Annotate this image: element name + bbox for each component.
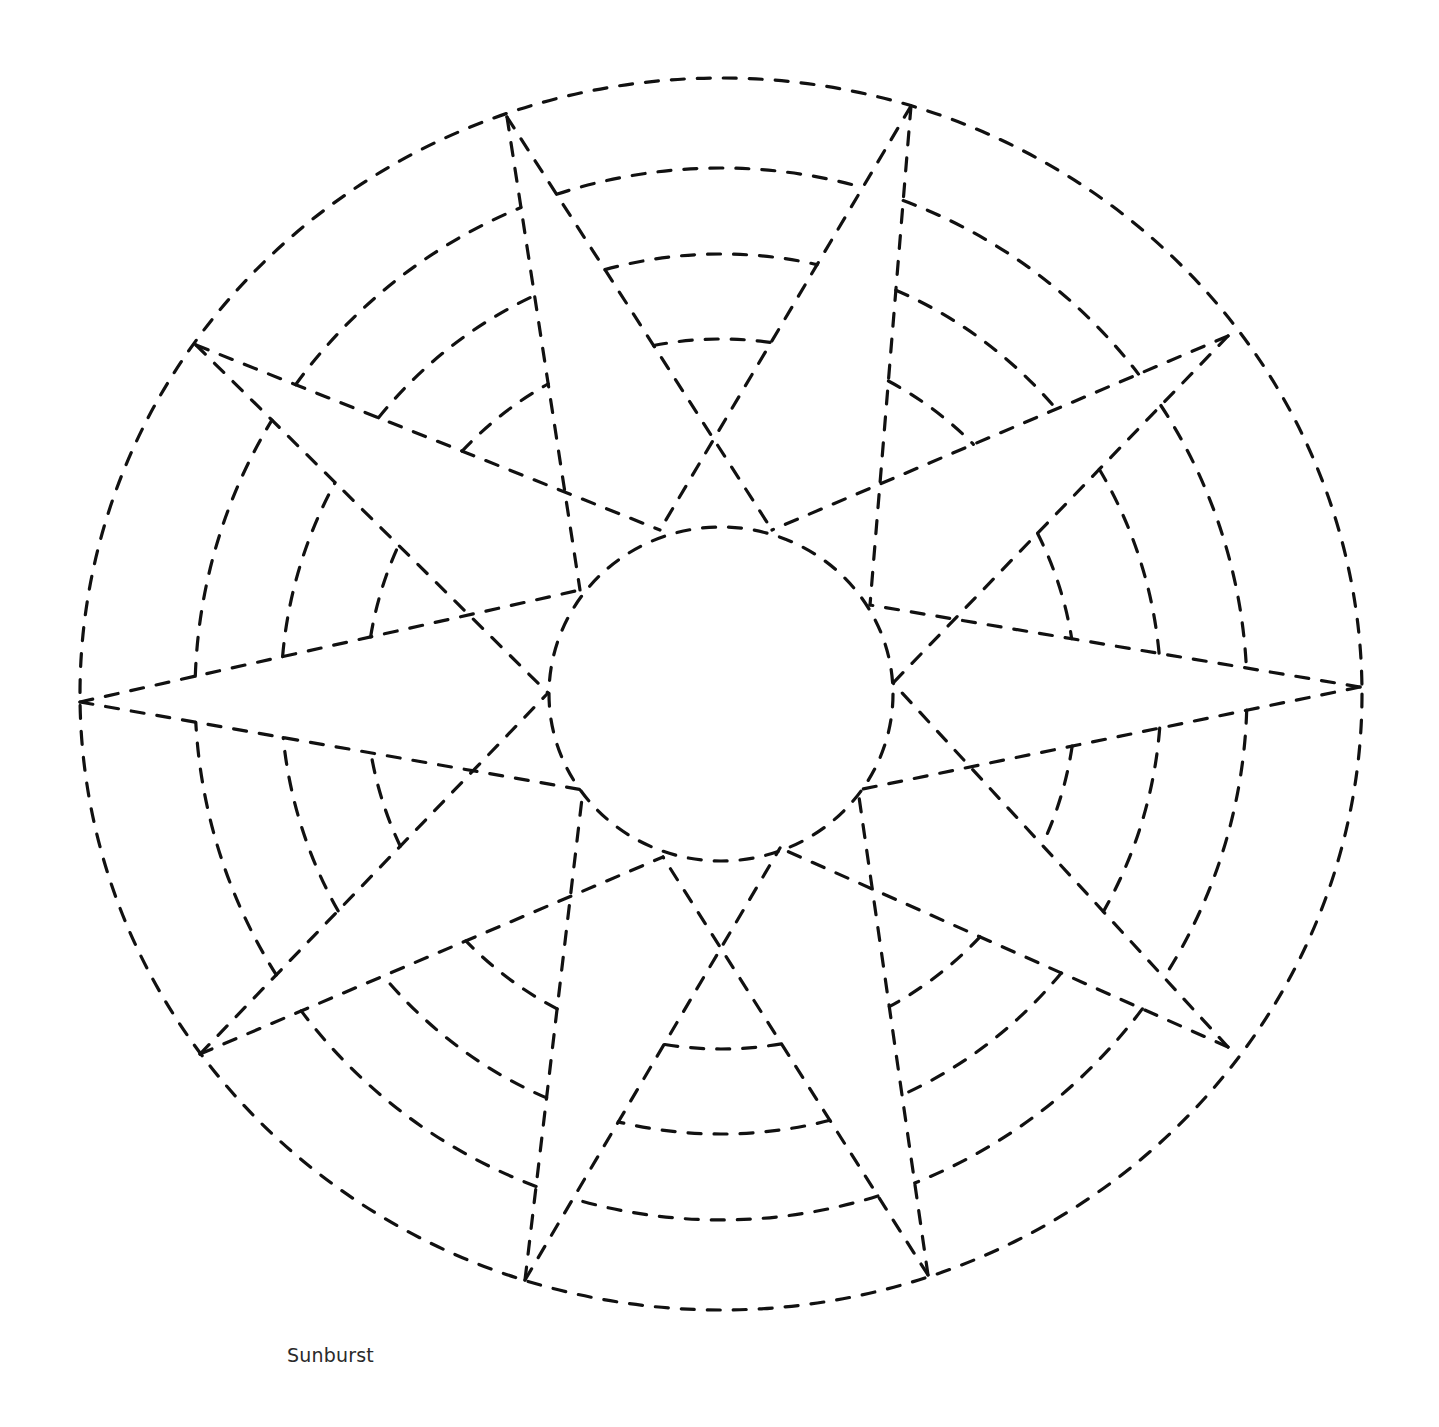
star-rays	[80, 106, 1360, 1280]
concentric-arc	[1042, 746, 1072, 845]
outer-circle	[80, 78, 1362, 1310]
star-ray	[663, 857, 928, 1275]
concentric-arc	[196, 722, 276, 975]
concentric-arc	[1099, 469, 1159, 653]
concentric-arc	[654, 339, 771, 346]
concentric-arc	[283, 483, 336, 657]
concentric-arc	[1161, 406, 1247, 669]
concentric-arc	[1164, 710, 1247, 977]
concentric-arc	[605, 254, 817, 270]
concentric-arc	[296, 208, 521, 385]
concentric-arc	[888, 381, 973, 444]
concentric-arc	[903, 201, 1138, 375]
concentric-arc	[896, 290, 1056, 409]
concentric-arc	[283, 738, 338, 911]
concentric-arc	[301, 1011, 536, 1187]
star-ray	[858, 790, 928, 1275]
concentric-arc	[1038, 533, 1072, 638]
concentric-arc	[466, 941, 557, 1009]
star-ray	[525, 848, 780, 1280]
star-ray	[196, 345, 660, 530]
concentric-arc	[618, 1120, 830, 1134]
concentric-arc	[379, 296, 535, 418]
concentric-arc	[371, 545, 399, 637]
star-ray	[80, 702, 583, 790]
star-ray	[780, 848, 1228, 1047]
concentric-arc	[371, 753, 400, 846]
star-ray	[893, 336, 1228, 683]
star-ray	[893, 683, 1228, 1047]
inner-circle	[549, 527, 893, 861]
concentric-arc	[889, 937, 980, 1007]
star-ray	[507, 117, 580, 590]
star-ray	[870, 605, 1360, 687]
star-ray	[200, 693, 548, 1054]
concentric-arc	[915, 1009, 1143, 1183]
star-ray	[525, 790, 583, 1280]
sector-arcs	[195, 168, 1246, 1220]
concentric-arc	[557, 168, 863, 194]
concentric-arc	[573, 1196, 878, 1220]
star-ray	[772, 336, 1228, 530]
star-ray	[196, 345, 548, 693]
concentric-arc	[664, 1044, 781, 1049]
star-ray	[858, 687, 1360, 790]
star-ray	[80, 590, 580, 702]
concentric-arc	[383, 976, 546, 1098]
concentric-arc	[1103, 728, 1159, 912]
diagram-caption: Sunburst	[287, 1344, 374, 1366]
star-ray	[507, 117, 772, 530]
concentric-arc	[462, 384, 548, 451]
star-ray	[870, 106, 911, 605]
sunburst-diagram	[0, 0, 1439, 1427]
concentric-arc	[902, 973, 1061, 1095]
concentric-arc	[195, 420, 272, 676]
